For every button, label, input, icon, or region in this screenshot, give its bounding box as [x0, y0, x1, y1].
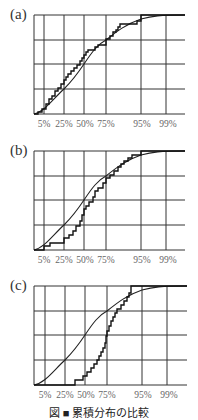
grid: [34, 151, 185, 250]
panel-b: (b) 5% 25% 50% 75% 95% 99%: [0, 136, 198, 271]
panel-a: (a) 5% 25% 50% 75% 95% 99%: [0, 0, 198, 135]
x-tick-label: 95%: [134, 390, 151, 400]
x-tick-label: 99%: [159, 119, 176, 129]
x-tick-label: 50%: [76, 255, 93, 265]
x-tick-label: 99%: [159, 255, 176, 265]
x-tick-label: 95%: [133, 119, 150, 129]
grid: [34, 15, 185, 114]
panel-c: (c) 5% 25% 50% 75% 95% 99%: [0, 271, 198, 406]
x-tick-label: 50%: [77, 390, 94, 400]
x-tick-label: 5%: [38, 255, 51, 265]
x-tick-label: 25%: [56, 390, 73, 400]
x-tick-label: 5%: [38, 119, 51, 129]
x-tick-label: 99%: [160, 390, 177, 400]
x-tick-label: 95%: [133, 255, 150, 265]
grid: [34, 286, 187, 385]
x-tick-label: 75%: [98, 390, 115, 400]
x-tick-label: 25%: [55, 119, 72, 129]
x-tick-label: 50%: [76, 119, 93, 129]
cdf-plot: [0, 0, 198, 135]
x-tick-label: 25%: [55, 255, 72, 265]
cdf-plot: [0, 271, 198, 406]
x-tick-label: 75%: [97, 255, 114, 265]
x-tick-label: 5%: [39, 390, 52, 400]
cdf-plot: [0, 136, 198, 271]
figure-caption: 図 ■ 累積分布の比較: [0, 404, 198, 420]
x-tick-label: 75%: [97, 119, 114, 129]
